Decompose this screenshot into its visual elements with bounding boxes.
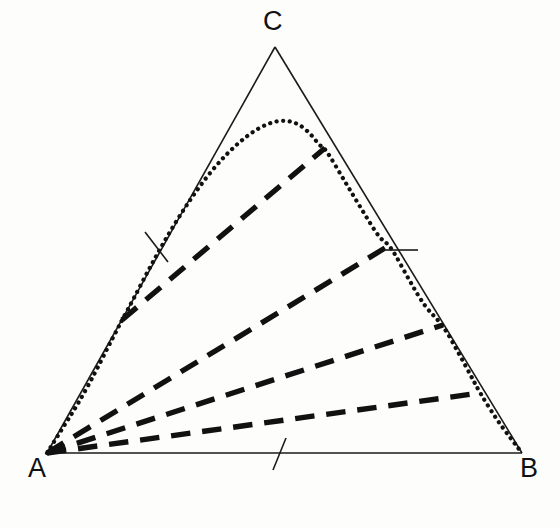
vertex-label-b: B bbox=[520, 455, 538, 482]
tick-edge-AB bbox=[273, 438, 286, 470]
ternary-phase-diagram: A B C bbox=[0, 0, 560, 528]
tie-line-1 bbox=[122, 148, 325, 320]
diagram-canvas bbox=[0, 0, 560, 528]
binodal-dotted-curve bbox=[47, 121, 522, 453]
vertex-label-c: C bbox=[263, 8, 283, 35]
tie-line-2 bbox=[47, 245, 390, 453]
series-group bbox=[47, 47, 522, 453]
tie-line-3 bbox=[47, 325, 443, 453]
vertex-label-a: A bbox=[28, 455, 46, 482]
tie-line-4 bbox=[47, 393, 480, 453]
